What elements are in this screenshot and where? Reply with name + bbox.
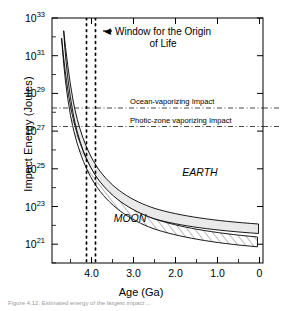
x-axis-title: Age (Ga) bbox=[0, 286, 282, 298]
y-tick-base-0: 10 bbox=[25, 12, 37, 24]
impact-energy-chart: 1033 1031 1029 1027 1025 1023 1021 bbox=[0, 0, 282, 311]
label-ocean-vaporizing: Ocean-vaporizing Impact bbox=[130, 97, 215, 106]
y-tick-exp-5: 23 bbox=[37, 199, 45, 208]
y-tick-exp-1: 31 bbox=[37, 48, 45, 57]
svg-text:1021: 1021 bbox=[25, 236, 45, 250]
y-tick-base-6: 10 bbox=[25, 238, 37, 250]
figure-caption: Figure 4.12. Estimated energy of the lar… bbox=[8, 300, 278, 306]
window-label-line1: Window for the Origin bbox=[115, 26, 211, 37]
label-photic-zone: Photic-zone vaporizing Impact bbox=[130, 116, 233, 125]
x-tick-label-2: 2.0 bbox=[168, 267, 183, 279]
y-axis-title: Impact Energy (Joules) bbox=[22, 44, 34, 224]
y-tick-exp-3: 27 bbox=[37, 123, 45, 132]
label-earth: EARTH bbox=[182, 166, 218, 178]
y-tick-exp-4: 25 bbox=[37, 161, 45, 170]
window-label-line2: of Life bbox=[149, 38, 177, 49]
x-tick-labels: 4.0 3.0 2.0 1.0 0 bbox=[84, 267, 262, 279]
label-moon: MOON bbox=[114, 212, 147, 224]
x-tick-label-4: 0 bbox=[257, 267, 263, 279]
y-tick-exp-0: 33 bbox=[37, 10, 45, 19]
x-tick-label-0: 4.0 bbox=[84, 267, 99, 279]
y-tick-exp-2: 29 bbox=[37, 85, 45, 94]
x-tick-label-3: 1.0 bbox=[210, 267, 225, 279]
y-tick-exp-6: 21 bbox=[37, 236, 45, 245]
figure-container: 1033 1031 1029 1027 1025 1023 1021 bbox=[0, 0, 282, 311]
x-tick-label-1: 3.0 bbox=[126, 267, 141, 279]
svg-text:1033: 1033 bbox=[25, 10, 45, 24]
